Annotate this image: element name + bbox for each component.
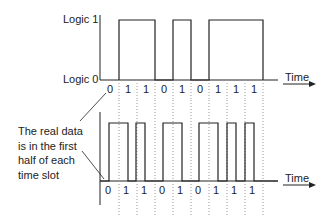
bottom-bit: 1: [135, 185, 153, 196]
top-bit: 1: [245, 84, 263, 95]
bottom-bit: 1: [225, 185, 243, 196]
top-bit: 0: [191, 84, 209, 95]
logic-0-label: Logic 0: [63, 74, 98, 85]
logic-1-label: Logic 1: [63, 14, 98, 25]
annotation-line: is in the first: [18, 139, 98, 154]
bottom-bit: 0: [153, 185, 171, 196]
annotation-line: half of each: [18, 153, 98, 168]
top-arrowhead-icon: [309, 81, 316, 87]
bottom-bit: 0: [189, 185, 207, 196]
top-bit: 0: [155, 84, 173, 95]
bottom-slot-dividers: [119, 100, 263, 215]
bottom-bit: 1: [171, 185, 189, 196]
bottom-rz-waveform: [100, 123, 278, 181]
bottom-bit: 1: [243, 185, 261, 196]
annotation-line: time slot: [18, 168, 98, 183]
top-bit: 1: [137, 84, 155, 95]
bottom-arrowhead-icon: [309, 182, 316, 188]
top-bit: 1: [209, 84, 227, 95]
top-bit: 1: [119, 84, 137, 95]
leader-line-top: [80, 93, 106, 121]
bottom-bit: 1: [207, 185, 225, 196]
bottom-bit: 1: [117, 185, 135, 196]
top-bit: 1: [173, 84, 191, 95]
top-bit: 0: [101, 84, 119, 95]
bottom-time-label: Time: [285, 173, 309, 184]
annotation-text: The real data is in the first half of ea…: [18, 124, 98, 182]
top-bit: 1: [227, 84, 245, 95]
top-time-label: Time: [285, 72, 309, 83]
bottom-bit: 0: [99, 185, 117, 196]
top-nrz-waveform: [119, 20, 263, 80]
annotation-line: The real data: [18, 124, 98, 139]
